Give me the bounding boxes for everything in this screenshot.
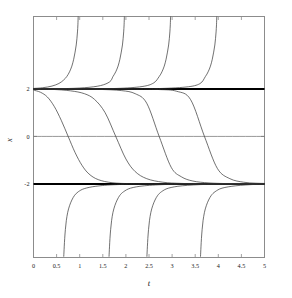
x-tick-label-8: 4 [217, 262, 220, 269]
x-tick-label-7: 3.5 [191, 262, 199, 269]
x-axis-tick-labels: 00.511.522.533.544.55 [32, 262, 266, 269]
figure-container: 00.511.522.533.544.55 20-2 t x [0, 0, 292, 298]
x-tick-label-0: 0 [32, 262, 35, 269]
x-tick-label-1: 0.5 [53, 262, 61, 269]
y-tick-label-1: 0 [26, 133, 29, 140]
y-axis-tick-labels: 20-2 [24, 85, 29, 187]
x-tick-label-5: 2.5 [145, 262, 153, 269]
y-tick-label-0: 2 [26, 85, 29, 92]
x-tick-label-10: 5 [263, 262, 266, 269]
x-tick-label-3: 1.5 [99, 262, 107, 269]
ode-solution-curves-chart: 00.511.522.533.544.55 20-2 t x [0, 0, 292, 298]
x-tick-label-6: 3 [171, 262, 174, 269]
x-tick-label-4: 2 [124, 262, 127, 269]
x-tick-label-2: 1 [78, 262, 81, 269]
x-tick-label-9: 4.5 [238, 262, 246, 269]
y-axis-label: x [4, 138, 14, 143]
y-tick-label-2: -2 [24, 180, 29, 187]
x-axis-label: t [148, 278, 151, 288]
